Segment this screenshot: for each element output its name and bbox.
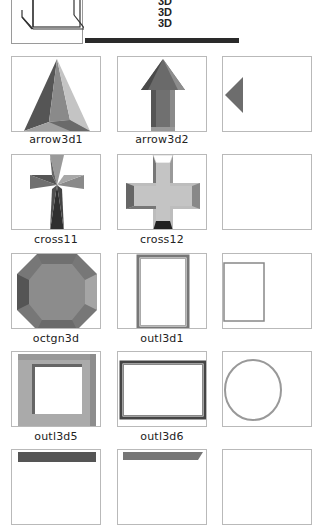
thumbnail-arrow3d1[interactable] — [11, 56, 101, 132]
thumbnail-partial[interactable] — [222, 351, 312, 427]
wireframe-cube-icon — [12, 0, 84, 45]
arrow-3d-2-icon — [118, 57, 207, 132]
outline-3d-6-icon — [118, 352, 207, 427]
partial-diamond-icon — [223, 57, 312, 132]
thumbnail-label: cross11 — [6, 234, 106, 246]
thumbnail-label: arrow3d1 — [6, 134, 106, 146]
thumbnail-partial[interactable] — [222, 154, 312, 230]
arrow-3d-1-icon — [12, 57, 101, 132]
thumbnail-label: outl3d6 — [112, 431, 212, 443]
outline-3d-icon — [12, 450, 101, 525]
cross-12-icon — [118, 155, 207, 230]
thumbnail-partial[interactable] — [222, 56, 312, 132]
cross-11-icon — [12, 155, 101, 230]
partial-outline-icon — [223, 254, 312, 329]
thumbnail-next-row[interactable] — [222, 449, 312, 525]
thumbnail-label: cross12 — [112, 234, 212, 246]
label-3d: 3D — [150, 18, 180, 29]
thumbnail-outl3d5[interactable] — [11, 351, 101, 427]
thumbnail-label: outl3d1 — [112, 333, 212, 345]
cube-preview-frame[interactable] — [11, 0, 83, 44]
thumbnail-label: arrow3d2 — [112, 134, 212, 146]
thumbnail-label: outl3d5 — [6, 431, 106, 443]
thumbnail-next-row[interactable] — [11, 449, 101, 525]
divider-rule — [85, 38, 239, 43]
thumbnail-outl3d1[interactable] — [117, 253, 207, 329]
thumbnail-label: octgn3d — [6, 333, 106, 345]
outline-3d-1-icon — [118, 254, 207, 329]
thumbnail-partial[interactable] — [222, 253, 312, 329]
thumbnail-next-row[interactable] — [117, 449, 207, 525]
thumbnail-arrow3d2[interactable] — [117, 56, 207, 132]
thumbnail-cross12[interactable] — [117, 154, 207, 230]
partial-circle-icon — [223, 352, 312, 427]
outline-3d-5-icon — [12, 352, 101, 427]
thumbnail-octgn3d[interactable] — [11, 253, 101, 329]
blank-thumbnail-icon — [223, 450, 312, 525]
outline-3d-icon — [118, 450, 207, 525]
octagon-3d-icon — [12, 254, 101, 329]
thumbnail-outl3d6[interactable] — [117, 351, 207, 427]
thumbnail-cross11[interactable] — [11, 154, 101, 230]
blank-thumbnail-icon — [223, 155, 312, 230]
